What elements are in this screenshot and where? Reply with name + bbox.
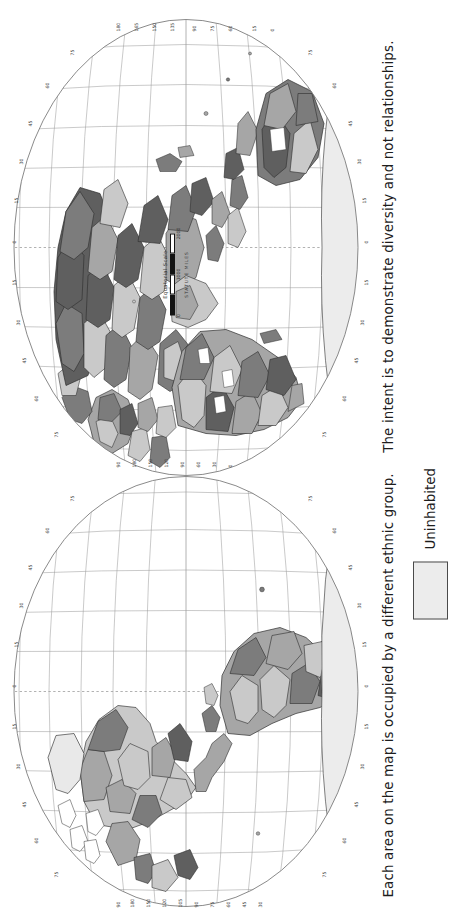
svg-text:75: 75 <box>210 901 215 907</box>
caption-sentence-1: Each area on the map is occupied by a di… <box>381 473 396 897</box>
svg-text:45: 45 <box>354 357 359 363</box>
svg-text:180: 180 <box>132 458 137 467</box>
svg-text:15: 15 <box>12 723 17 729</box>
svg-text:60: 60 <box>34 837 39 843</box>
scale-title: Equatorial Scale <box>162 233 168 315</box>
scale-bar: Equatorial Scale 0 1000 2000 STATUTE MIL… <box>162 233 189 315</box>
map-svg: 0 15 30 45 60 75 0 15 30 45 60 75 15 30 … <box>0 0 372 919</box>
svg-text:30: 30 <box>16 763 21 769</box>
svg-text:0: 0 <box>12 684 17 687</box>
svg-text:30: 30 <box>360 763 365 769</box>
svg-text:75: 75 <box>70 49 75 55</box>
svg-text:75: 75 <box>54 431 59 437</box>
svg-text:60: 60 <box>196 461 201 467</box>
svg-text:30: 30 <box>357 158 362 164</box>
svg-text:60: 60 <box>332 82 337 88</box>
svg-text:60: 60 <box>34 395 39 401</box>
svg-text:75: 75 <box>210 25 215 31</box>
caption-and-legend: Each area on the map is occupied by a di… <box>366 0 452 919</box>
svg-text:60: 60 <box>45 82 50 88</box>
world-map: 0 15 30 45 60 75 0 15 30 45 60 75 15 30 … <box>0 0 372 919</box>
svg-text:90: 90 <box>116 461 121 467</box>
svg-text:15: 15 <box>14 197 19 203</box>
svg-text:15: 15 <box>252 25 257 31</box>
scale-ticks: 0 1000 2000 <box>176 233 183 315</box>
svg-text:30: 30 <box>16 319 21 325</box>
svg-text:60: 60 <box>342 837 347 843</box>
scale-tick-1000: 1000 <box>176 268 181 280</box>
landmass-new-zealand <box>296 43 316 59</box>
svg-text:180: 180 <box>130 898 135 907</box>
svg-text:45: 45 <box>22 357 27 363</box>
svg-text:90: 90 <box>194 901 199 907</box>
svg-text:30: 30 <box>258 901 263 907</box>
svg-text:60: 60 <box>45 527 50 533</box>
svg-text:150: 150 <box>146 898 151 907</box>
svg-text:60: 60 <box>332 527 337 533</box>
svg-text:30: 30 <box>19 602 24 608</box>
landmass-antarctica-west <box>321 468 372 914</box>
legend: Uninhabited <box>413 468 448 619</box>
caption-sentence-2: The intent is to demonstrate diversity a… <box>381 40 396 452</box>
svg-text:45: 45 <box>348 120 353 126</box>
svg-text:75: 75 <box>308 495 313 501</box>
svg-text:105: 105 <box>178 898 183 907</box>
landmass-antarctica-east <box>321 19 372 475</box>
svg-text:90: 90 <box>116 901 121 907</box>
svg-text:0: 0 <box>12 240 17 243</box>
svg-text:90: 90 <box>192 25 197 31</box>
svg-text:45: 45 <box>22 801 27 807</box>
svg-text:150: 150 <box>148 458 153 467</box>
svg-text:30: 30 <box>19 158 24 164</box>
svg-text:0: 0 <box>228 464 233 467</box>
svg-text:120: 120 <box>162 898 167 907</box>
legend-swatch-uninhabited <box>413 561 448 619</box>
svg-text:75: 75 <box>70 495 75 501</box>
svg-text:15: 15 <box>12 279 17 285</box>
svg-text:15: 15 <box>14 641 19 647</box>
western-hemisphere <box>0 459 372 919</box>
scale-tick-0: 0 <box>176 314 181 317</box>
svg-text:30: 30 <box>212 461 217 467</box>
svg-text:75: 75 <box>54 871 59 877</box>
svg-text:180: 180 <box>116 22 121 31</box>
svg-text:150: 150 <box>152 22 157 31</box>
svg-text:30: 30 <box>360 319 365 325</box>
svg-text:60: 60 <box>342 395 347 401</box>
svg-text:0: 0 <box>270 28 275 31</box>
svg-text:75: 75 <box>322 431 327 437</box>
scale-tick-2000: 2000 <box>176 227 181 239</box>
svg-text:45: 45 <box>348 564 353 570</box>
svg-text:45: 45 <box>28 120 33 126</box>
svg-text:135: 135 <box>170 22 175 31</box>
svg-text:90: 90 <box>180 461 185 467</box>
svg-text:30: 30 <box>357 602 362 608</box>
map-caption: Each area on the map is occupied by a di… <box>381 40 396 897</box>
rotated-artwork-stage: 0 15 30 45 60 75 0 15 30 45 60 75 15 30 … <box>0 0 458 919</box>
scale-units: STATUTE MILES <box>184 233 189 315</box>
svg-text:75: 75 <box>308 49 313 55</box>
svg-text:45: 45 <box>242 901 247 907</box>
svg-text:60: 60 <box>226 901 231 907</box>
svg-text:45: 45 <box>28 564 33 570</box>
legend-label-uninhabited: Uninhabited <box>423 468 438 549</box>
svg-text:45: 45 <box>354 801 359 807</box>
svg-text:165: 165 <box>134 22 139 31</box>
svg-text:75: 75 <box>322 871 327 877</box>
svg-text:120: 120 <box>164 458 169 467</box>
svg-text:60: 60 <box>228 25 233 31</box>
scale-bar-graphic <box>170 233 175 315</box>
